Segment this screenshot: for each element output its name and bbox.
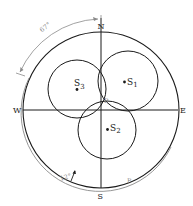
compass-circle-diagram: N S W E S1 S3 S2 P P 67° 12° bbox=[0, 0, 193, 206]
s1-center-dot bbox=[123, 81, 126, 84]
label-east: E bbox=[180, 106, 186, 115]
angle-arc-67 bbox=[20, 19, 98, 72]
angle-arc-67-tick-end bbox=[16, 73, 25, 76]
arrowhead-12 bbox=[73, 170, 77, 174]
inner-offset-arc bbox=[21, 78, 171, 191]
label-s3: S3 bbox=[74, 78, 85, 91]
label-p-arc: P bbox=[127, 177, 132, 185]
s3-center-dot bbox=[76, 88, 79, 91]
label-south: S bbox=[98, 192, 103, 201]
label-s1-subscript: 1 bbox=[133, 81, 137, 89]
label-angle-67: 67° bbox=[38, 21, 52, 34]
label-north: N bbox=[98, 22, 105, 31]
label-west: W bbox=[13, 106, 22, 115]
s2-center-dot bbox=[106, 128, 109, 131]
label-s2: S2 bbox=[110, 123, 121, 135]
label-p-center: P bbox=[104, 97, 109, 105]
label-s1: S1 bbox=[127, 77, 138, 89]
arrowhead-67-start bbox=[93, 17, 98, 21]
label-s3-subscript: 3 bbox=[80, 83, 84, 91]
label-angle-12: 12° bbox=[59, 172, 72, 183]
label-s2-subscript: 2 bbox=[116, 127, 120, 135]
